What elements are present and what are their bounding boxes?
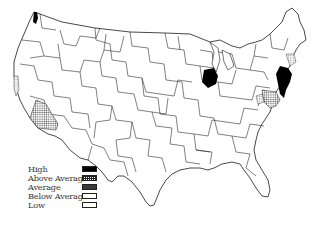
legend-label: Low: [28, 201, 45, 210]
region-high-new-york: [276, 66, 292, 98]
legend-swatch-low: [82, 202, 97, 208]
legend-item-low: Low: [28, 201, 103, 210]
legend-swatch-average: [82, 184, 97, 190]
map-legend: High Above Average Average Below Average…: [28, 165, 103, 210]
legend-swatch-high: [82, 166, 97, 172]
legend-swatch-below-average: [82, 193, 97, 199]
legend-swatch-above-average: [82, 175, 97, 181]
